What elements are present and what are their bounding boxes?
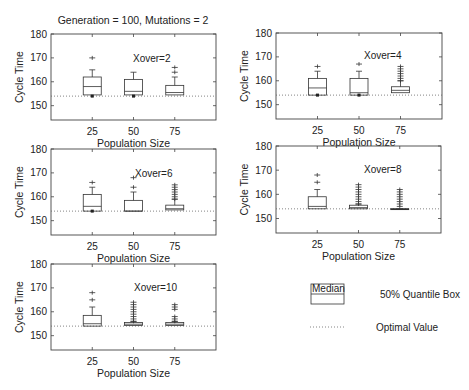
y-axis-label: Cycle Time: [238, 163, 250, 215]
x-tick-label: 50: [128, 126, 140, 137]
x-tick-label: 75: [169, 356, 181, 367]
box-75: [166, 183, 184, 210]
quantile-box: [392, 87, 410, 93]
x-tick-label: 50: [128, 241, 140, 252]
legend: Median 50% Quantile Box Optimal Value: [310, 283, 460, 333]
y-tick-label: 150: [30, 215, 47, 226]
box-25: [83, 180, 101, 212]
x-axis-label: Population Size: [97, 252, 170, 264]
quantile-box: [83, 315, 101, 326]
box-50: [125, 176, 143, 211]
quantile-box: [83, 77, 101, 95]
y-axis-label: Cycle Time: [13, 51, 25, 103]
y-axis-label: Cycle Time: [13, 166, 25, 218]
panel-1: 150160170180255075Population SizeCycle T…: [13, 29, 216, 150]
box-50: [125, 72, 143, 97]
box-25: [83, 56, 101, 98]
y-tick-label: 160: [30, 306, 47, 317]
box-25: [309, 64, 327, 96]
box-50: [125, 300, 143, 325]
quantile-box: [125, 79, 143, 95]
y-tick-label: 160: [255, 189, 272, 200]
box-50: [350, 183, 368, 209]
box-75: [166, 65, 184, 94]
panel-annotation: Xover=8: [364, 164, 402, 175]
panel-annotation: Xover=4: [364, 50, 402, 61]
x-tick-label: 50: [353, 239, 365, 250]
quantile-box: [83, 194, 101, 211]
legend-optimal-description: Optimal Value: [376, 322, 439, 333]
x-tick-label: 25: [87, 241, 99, 252]
min-marker: [316, 94, 319, 97]
x-tick-label: 75: [169, 241, 181, 252]
y-tick-label: 150: [30, 100, 47, 111]
y-tick-label: 170: [30, 52, 47, 63]
quantile-box: [309, 78, 327, 95]
y-tick-label: 180: [30, 144, 47, 155]
x-tick-label: 50: [128, 356, 140, 367]
y-axis-label: Cycle Time: [13, 281, 25, 333]
x-tick-label: 25: [87, 356, 99, 367]
figure: Generation = 100, Mutations = 2 15016017…: [0, 0, 469, 390]
x-tick-label: 75: [169, 126, 181, 137]
quantile-box: [166, 205, 184, 210]
box-50: [350, 62, 368, 97]
y-tick-label: 170: [30, 167, 47, 178]
y-tick-label: 160: [255, 75, 272, 86]
y-tick-label: 170: [30, 282, 47, 293]
quantile-box: [308, 197, 326, 209]
panel-2: 150160170180255075Population SizeCycle T…: [238, 28, 442, 149]
y-tick-label: 150: [255, 99, 272, 110]
panel-5: 150160170180255075Population SizeCycle T…: [13, 259, 216, 380]
legend-box-description: 50% Quantile Box: [380, 289, 460, 300]
min-marker: [91, 210, 94, 213]
panel-annotation: Xover=10: [134, 282, 178, 293]
panel-3: 150160170180255075Population SizeCycle T…: [13, 144, 216, 265]
x-tick-label: 25: [312, 239, 324, 250]
y-tick-label: 180: [255, 141, 272, 152]
y-tick-label: 150: [255, 213, 272, 224]
quantile-box: [125, 200, 143, 211]
x-tick-label: 25: [312, 125, 324, 136]
box-75: [392, 64, 410, 92]
y-tick-label: 160: [30, 76, 47, 87]
y-tick-label: 180: [30, 259, 47, 270]
x-tick-label: 75: [394, 239, 406, 250]
quantile-box: [166, 85, 184, 95]
min-marker: [132, 95, 135, 98]
x-tick-label: 75: [395, 125, 407, 136]
y-tick-label: 180: [30, 29, 47, 40]
min-marker: [91, 95, 94, 98]
y-axis-label: Cycle Time: [238, 50, 250, 102]
x-tick-label: 50: [353, 125, 365, 136]
figure-title: Generation = 100, Mutations = 2: [58, 14, 209, 26]
y-tick-label: 180: [255, 28, 272, 39]
box-75: [391, 188, 409, 210]
min-marker: [358, 94, 361, 97]
legend-median-label: Median: [312, 283, 345, 294]
box-25: [308, 173, 326, 209]
y-tick-label: 170: [255, 51, 272, 62]
box-25: [83, 291, 101, 326]
y-tick-label: 150: [30, 330, 47, 341]
x-axis-label: Population Size: [322, 250, 395, 262]
x-tick-label: 25: [87, 126, 99, 137]
panel-annotation: Xover=6: [135, 168, 173, 179]
y-tick-label: 160: [30, 191, 47, 202]
y-tick-label: 170: [255, 165, 272, 176]
box-75: [166, 303, 184, 326]
x-axis-label: Population Size: [97, 367, 170, 379]
panel-annotation: Xover=2: [133, 53, 171, 64]
x-axis-label: Population Size: [97, 137, 170, 149]
panel-4: 150160170180255075Population SizeCycle T…: [238, 141, 441, 263]
